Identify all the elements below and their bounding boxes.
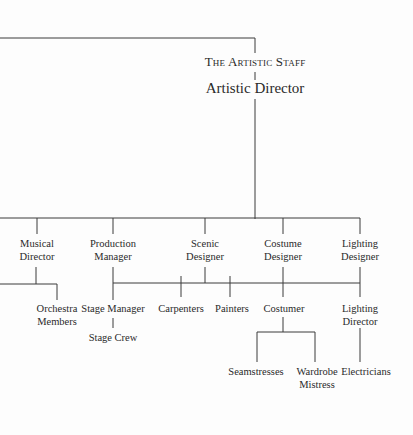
- chart-title: The Artistic Staff: [205, 55, 306, 68]
- node-musical-director: MusicalDirector: [20, 237, 55, 263]
- node-stage-manager: Stage Manager: [81, 302, 144, 315]
- org-chart: The Artistic Staff Artistic Director Mus…: [0, 0, 413, 435]
- node-lighting-director: LightingDirector: [342, 302, 378, 328]
- node-seamstresses: Seamstresses: [228, 365, 283, 378]
- node-production-manager: ProductionManager: [90, 237, 136, 263]
- node-painters: Painters: [215, 302, 249, 315]
- node-costume-designer: CostumeDesigner: [264, 237, 302, 263]
- node-carpenters: Carpenters: [158, 302, 203, 315]
- node-lighting-designer: LightingDesigner: [341, 237, 379, 263]
- node-stage-crew: Stage Crew: [89, 331, 138, 344]
- node-orchestra-members: OrchestraMembers: [37, 302, 78, 328]
- node-scenic-designer: ScenicDesigner: [186, 237, 224, 263]
- node-artistic-director: Artistic Director: [206, 82, 305, 95]
- node-electricians: Electricians: [341, 365, 391, 378]
- node-wardrobe-mistress: WardrobeMistress: [296, 365, 337, 391]
- node-costumer: Costumer: [264, 302, 305, 315]
